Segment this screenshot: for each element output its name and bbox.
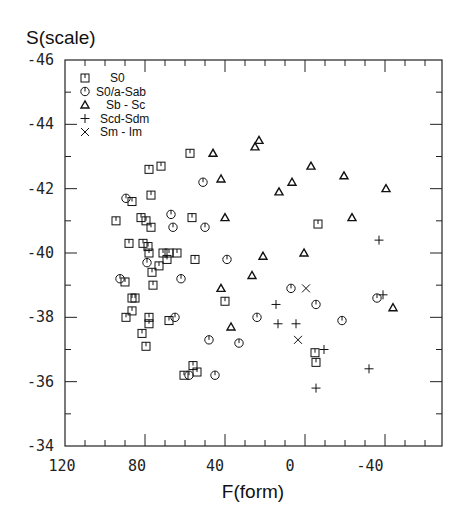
data-point (340, 172, 348, 179)
legend-label: Scd-Sdm (100, 112, 149, 126)
data-point (112, 217, 120, 225)
data-point (294, 336, 302, 344)
legend-label: Sm - Im (100, 125, 142, 139)
data-point (188, 214, 196, 222)
data-points (112, 136, 397, 392)
data-point (116, 275, 124, 283)
y-tick-label: -44 (27, 115, 54, 133)
data-point (375, 236, 384, 245)
data-point (173, 249, 181, 257)
data-point (185, 371, 193, 379)
data-point (287, 284, 295, 292)
y-tick-label: -38 (27, 308, 54, 326)
data-point (311, 349, 319, 357)
data-point (186, 149, 194, 157)
data-point (307, 162, 315, 169)
data-point (177, 275, 185, 283)
y-tick-labels: -46-44-42-40-38-36-34 (27, 51, 54, 455)
data-point (292, 319, 301, 328)
data-point (221, 214, 229, 221)
series-plus (272, 236, 388, 393)
data-point (272, 300, 281, 309)
plus-icon (81, 114, 90, 123)
legend: S0S0/a-SabSb - ScScd-SdmSm - Im (81, 71, 150, 139)
data-point (149, 281, 157, 289)
x-tick-label: -40 (356, 457, 383, 475)
data-point (138, 329, 146, 337)
data-point (255, 136, 263, 143)
y-axis-title: S(scale) (26, 27, 96, 48)
data-point (199, 178, 207, 186)
data-point (302, 284, 310, 292)
data-point (248, 272, 256, 279)
data-point (143, 258, 151, 266)
data-point (191, 255, 199, 263)
data-point (167, 210, 175, 218)
data-point (217, 175, 225, 182)
data-point (259, 252, 267, 259)
data-point (139, 239, 147, 247)
triangle-icon (81, 101, 89, 108)
data-point (275, 188, 283, 195)
data-point (180, 371, 188, 379)
legend-item-square: S0 (81, 71, 125, 85)
data-point (312, 300, 320, 308)
data-point (209, 149, 217, 156)
data-point (348, 214, 356, 221)
series-cross (294, 284, 310, 343)
data-point (379, 290, 388, 299)
legend-item-triangle: Sb - Sc (81, 98, 145, 112)
legend-label: S0/a-Sab (96, 85, 146, 99)
data-point (338, 316, 346, 324)
data-point (142, 342, 150, 350)
data-point (157, 162, 165, 170)
legend-item-cross: Sm - Im (81, 125, 142, 139)
data-point (382, 185, 390, 192)
data-point (314, 220, 322, 228)
x-tick-labels: 12080400-40 (48, 457, 383, 475)
data-point (147, 191, 155, 199)
x-tick-label: 0 (285, 457, 294, 475)
legend-item-plus: Scd-Sdm (81, 112, 150, 126)
data-point (227, 323, 235, 330)
scatter-chart: S(scale) F(form) 12080400-40 -46-44-42-4… (0, 0, 464, 525)
data-point (217, 284, 225, 291)
data-point (223, 255, 231, 263)
y-tick-label: -42 (27, 180, 54, 198)
data-point (365, 364, 374, 373)
data-point (288, 178, 296, 185)
circle-icon (81, 87, 89, 95)
data-point (253, 313, 261, 321)
y-tick-label: -46 (27, 51, 54, 69)
square-icon (81, 74, 89, 82)
data-point (235, 339, 243, 347)
data-point (389, 304, 397, 311)
data-point (171, 313, 179, 321)
data-point (145, 165, 153, 173)
data-point (137, 214, 145, 222)
data-point (300, 249, 308, 256)
data-point (312, 358, 320, 366)
y-tick-label: -40 (27, 244, 54, 262)
data-point (205, 336, 213, 344)
data-point (274, 319, 283, 328)
data-point (211, 371, 219, 379)
data-point (125, 239, 133, 247)
y-tick-label: -34 (27, 437, 54, 455)
x-tick-label: 120 (48, 457, 75, 475)
x-axis-title: F(form) (222, 481, 284, 502)
cross-icon (81, 128, 89, 136)
data-point (201, 223, 209, 231)
series-triangle (209, 136, 397, 330)
data-point (320, 345, 329, 354)
legend-label: S0 (110, 71, 125, 85)
legend-label: Sb - Sc (106, 98, 145, 112)
y-tick-label: -36 (27, 373, 54, 391)
legend-item-circle: S0/a-Sab (81, 85, 147, 99)
data-point (221, 297, 229, 305)
data-point (122, 194, 130, 202)
x-tick-label: 80 (128, 457, 146, 475)
data-point (169, 223, 177, 231)
data-point (312, 384, 321, 393)
x-tick-label: 40 (206, 457, 224, 475)
